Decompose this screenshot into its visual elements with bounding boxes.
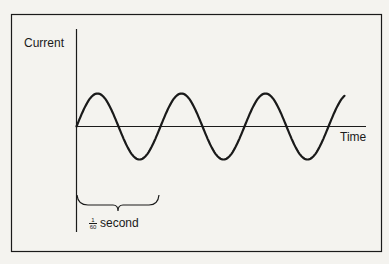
x-axis-label: Time <box>340 130 366 144</box>
period-unit: second <box>100 216 139 230</box>
fraction: 1 60 <box>89 217 97 230</box>
period-brace <box>77 195 159 211</box>
y-axis-label: Current <box>24 36 64 50</box>
fraction-denominator: 60 <box>90 224 97 230</box>
period-label: 1 60 second <box>89 216 139 230</box>
